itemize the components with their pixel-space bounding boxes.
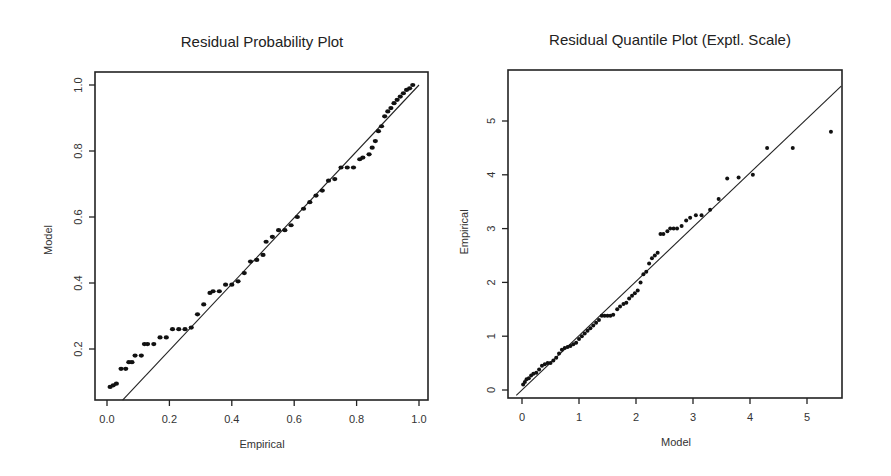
data-point xyxy=(737,175,741,179)
data-point xyxy=(210,289,215,293)
x-tick-label: 3 xyxy=(690,411,696,423)
data-point xyxy=(407,86,412,90)
data-point xyxy=(557,351,561,355)
data-point xyxy=(791,146,795,150)
data-point xyxy=(410,83,415,87)
chart-title-right: Residual Quantile Plot (Exptl. Scale) xyxy=(549,31,791,48)
data-point xyxy=(313,193,318,197)
data-point xyxy=(189,325,194,329)
y-tick-label: 2 xyxy=(485,279,497,285)
data-point xyxy=(195,312,200,316)
data-point xyxy=(129,360,134,364)
data-point xyxy=(338,165,343,169)
x-tick-label: 0.2 xyxy=(162,413,177,425)
data-point xyxy=(694,213,698,217)
data-point xyxy=(680,224,684,228)
x-axis-right: 012345 xyxy=(519,398,810,423)
data-point xyxy=(656,251,660,255)
data-point xyxy=(145,342,150,346)
data-point xyxy=(708,208,712,212)
data-point xyxy=(388,106,393,110)
x-axis-left: 0.00.20.40.60.81.0 xyxy=(99,400,426,425)
data-point xyxy=(636,288,640,292)
data-points-right xyxy=(521,130,833,387)
data-point xyxy=(351,165,356,169)
y-axis-label-left: Model xyxy=(42,225,54,255)
data-point xyxy=(700,213,704,217)
data-point xyxy=(370,146,375,150)
data-point xyxy=(360,156,365,160)
data-point xyxy=(176,327,181,331)
data-point xyxy=(182,327,187,331)
data-point xyxy=(332,177,337,181)
data-point xyxy=(765,146,769,150)
data-point xyxy=(688,216,692,220)
chart-canvas: Residual Probability Plot 0.00.20.40.60.… xyxy=(0,0,891,476)
data-point xyxy=(611,313,615,317)
data-point xyxy=(829,130,833,134)
data-point xyxy=(391,101,396,105)
x-tick-label: 0.4 xyxy=(224,413,239,425)
data-point xyxy=(301,207,306,211)
y-tick-label: 0 xyxy=(485,387,497,393)
x-tick-label: 2 xyxy=(633,411,639,423)
y-axis-left: 0.20.40.60.81.0 xyxy=(72,77,95,356)
data-point xyxy=(114,382,119,386)
data-point xyxy=(376,129,381,133)
data-point xyxy=(661,232,665,236)
data-point xyxy=(574,341,578,345)
x-tick-label: 0.6 xyxy=(287,413,302,425)
chart-title-left: Residual Probability Plot xyxy=(181,33,344,50)
data-point xyxy=(554,356,558,360)
data-point xyxy=(264,240,269,244)
plot-frame-left xyxy=(95,72,428,400)
data-point xyxy=(270,235,275,239)
data-point xyxy=(717,197,721,201)
data-point xyxy=(242,271,247,275)
data-point xyxy=(624,301,628,305)
data-point xyxy=(132,354,137,358)
y-tick-label: 0.6 xyxy=(72,209,84,224)
x-tick-label: 1.0 xyxy=(411,413,426,425)
data-point xyxy=(684,219,688,223)
y-tick-label: 1.0 xyxy=(72,77,84,92)
data-point xyxy=(201,302,206,306)
data-point xyxy=(382,114,387,118)
data-point xyxy=(326,179,331,183)
data-point xyxy=(217,289,222,293)
data-point xyxy=(385,109,390,113)
data-point xyxy=(170,327,175,331)
data-point xyxy=(248,259,253,263)
data-point xyxy=(223,283,228,287)
data-point xyxy=(534,371,538,375)
reference-line-left xyxy=(123,85,419,400)
data-point xyxy=(618,305,622,309)
data-point xyxy=(282,228,287,232)
data-point xyxy=(157,335,162,339)
y-tick-label: 4 xyxy=(485,172,497,178)
data-point xyxy=(668,227,672,231)
y-axis-right: 012345 xyxy=(485,118,508,393)
data-point xyxy=(254,258,259,262)
data-point xyxy=(123,367,128,371)
data-point xyxy=(395,98,400,102)
data-point xyxy=(288,223,293,227)
quantile-plot: Residual Quantile Plot (Exptl. Scale) 01… xyxy=(458,31,842,448)
data-points-left xyxy=(108,83,416,389)
y-tick-label: 0.4 xyxy=(72,275,84,290)
x-axis-label-left: Empirical xyxy=(239,438,284,450)
data-point xyxy=(118,367,123,371)
y-tick-label: 0.2 xyxy=(72,341,84,356)
data-point xyxy=(537,368,541,372)
x-tick-label: 1 xyxy=(576,411,582,423)
data-point xyxy=(345,165,350,169)
data-point xyxy=(401,91,406,95)
data-point xyxy=(366,152,371,156)
x-tick-label: 0 xyxy=(519,411,525,423)
data-point xyxy=(151,342,156,346)
data-point xyxy=(672,227,676,231)
data-point xyxy=(379,124,384,128)
data-point xyxy=(164,335,169,339)
data-point xyxy=(398,94,403,98)
data-point xyxy=(276,228,281,232)
